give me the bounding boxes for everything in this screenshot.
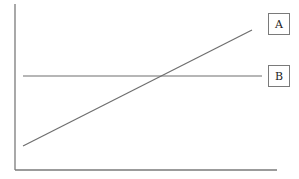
diagram-canvas — [0, 0, 299, 179]
label-a-box: A — [268, 13, 290, 35]
label-b: B — [275, 70, 283, 83]
line-a — [23, 30, 252, 146]
label-a: A — [275, 18, 283, 31]
label-b-box: B — [268, 65, 290, 87]
